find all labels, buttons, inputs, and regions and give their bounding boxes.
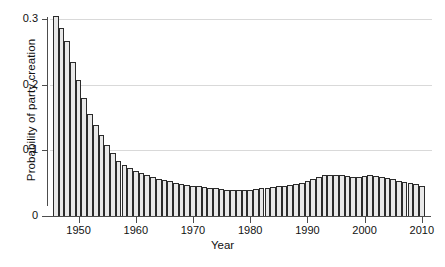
y-tick-mark [42, 150, 48, 151]
plot-area [50, 8, 432, 207]
x-tick-label: 2000 [335, 225, 395, 236]
x-tick-label: 1960 [106, 225, 166, 236]
x-tick-label: 1950 [49, 225, 109, 236]
x-tick-label: 1990 [277, 225, 337, 236]
x-tick-mark [136, 217, 137, 223]
x-tick-mark [307, 217, 308, 223]
y-axis-line [47, 17, 48, 206]
x-tick-mark [250, 217, 251, 223]
party-creation-bar-chart: Probability of party creation Year 00.10… [0, 0, 445, 267]
gridline [50, 19, 432, 20]
x-axis-line [48, 216, 431, 217]
y-tick-label: 0.3 [0, 13, 38, 24]
x-axis-title: Year [0, 239, 445, 251]
x-tick-mark [365, 217, 366, 223]
y-tick-label: 0 [0, 210, 38, 221]
x-tick-label: 2010 [392, 225, 445, 236]
y-axis-title: Probability of party creation [25, 15, 37, 205]
y-tick-mark [42, 19, 48, 20]
y-tick-mark [42, 85, 48, 86]
gridline [50, 85, 432, 86]
x-tick-mark [193, 217, 194, 223]
bar [419, 186, 425, 216]
x-tick-label: 1980 [220, 225, 280, 236]
y-tick-mark [42, 216, 48, 217]
y-tick-label: 0.1 [0, 144, 38, 155]
x-tick-label: 1970 [163, 225, 223, 236]
x-tick-mark [79, 217, 80, 223]
x-tick-mark [422, 217, 423, 223]
y-tick-label: 0.2 [0, 79, 38, 90]
